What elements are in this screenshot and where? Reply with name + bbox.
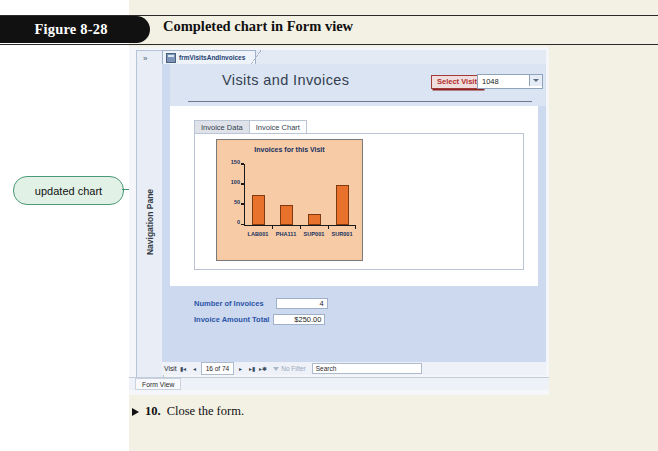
field-value[interactable]: 4 [276,298,328,309]
filter-status[interactable]: No Filter [273,365,306,372]
invoice-chart-object[interactable]: Invoices for this Visit 0 [216,139,363,261]
first-record-icon[interactable]: ▮◂ [179,363,188,374]
chart-y-tick-label: 100 [231,179,240,185]
field-invoice-amount-total: Invoice Amount Total $250.00 [194,314,325,325]
chart-x-tick-label: SUP001 [304,231,325,237]
next-record-icon[interactable]: ▸ [236,363,245,374]
chart-bar [308,214,321,225]
triangle-bullet-icon [132,408,139,416]
chart-y-axis [244,164,245,226]
document-tab-strip: frmVisitsAndInvoices [162,50,546,65]
chart-x-tick [300,226,301,229]
form-object-icon [166,53,176,63]
new-record-icon[interactable]: ▸✱ [258,363,267,374]
form-canvas: Visits and Invoices Select Visit 1048 In… [162,64,546,362]
field-number-of-invoices: Number of Invoices 4 [194,298,328,309]
chart-x-tick-label: LAB001 [248,231,269,237]
step-number: 10. [145,404,161,419]
chart-bar [280,205,293,225]
chart-plot-area-wrapper: Invoices for this Visit 0 [219,142,360,258]
step-instruction: 10. Close the form. [132,404,244,419]
figure-page: Figure 8-28 Completed chart in Form view… [0,0,658,451]
chevron-down-icon[interactable] [529,75,542,86]
field-label: Invoice Amount Total [194,315,269,324]
form-footer-fields: Number of Invoices 4 Invoice Amount Tota… [170,286,538,341]
visit-combo-box[interactable]: 1048 [477,74,543,89]
chart-plot-area: 0 50 100 150 [244,164,356,226]
step-text: Close the form. [167,404,244,419]
chart-x-tick [355,226,356,229]
navigation-pane[interactable]: » Navigation Pane [136,50,164,381]
figure-caption: Completed chart in Form view [163,18,353,35]
record-navigator: Visit ▮◂ ◂ 16 of 74 ▸ ▸▮ ▸✱ No Filter Se… [162,362,546,375]
chart-y-tick [241,183,244,184]
chart-y-tick-label: 150 [231,159,240,165]
tab-invoice-data[interactable]: Invoice Data [194,120,250,133]
chart-x-tick [272,226,273,229]
form-title: Visits and Invoices [222,72,349,88]
callout-updated-chart: updated chart [13,176,124,205]
field-value[interactable]: $250.00 [273,314,325,325]
search-input[interactable]: Search [312,363,422,374]
navigation-pane-label: Navigation Pane [145,189,155,255]
access-window: » Navigation Pane frmVisitsAndInvoices V… [129,47,549,395]
callout-label: updated chart [35,185,102,197]
last-record-icon[interactable]: ▸▮ [247,363,256,374]
record-position[interactable]: 16 of 74 [201,362,235,375]
chart-y-tick [241,203,244,204]
figure-rule-bottom [0,44,658,45]
figure-number-tab: Figure 8-28 [0,16,150,43]
form-header-divider [188,101,532,102]
document-tab-frmvisitsandinvoices[interactable]: frmVisitsAndInvoices [162,50,256,64]
tab-control-tab-row: Invoice Data Invoice Chart [194,120,307,133]
tab-invoice-chart[interactable]: Invoice Chart [249,120,307,133]
chart-title: Invoices for this Visit [219,146,360,153]
chart-y-tick [241,163,244,164]
status-bar-text: Form View [135,378,181,390]
status-bar: Form View [129,377,549,390]
select-visit-button[interactable]: Select Visit [431,75,483,89]
expand-navigation-pane-icon[interactable]: » [143,55,147,63]
page-left-margin [0,0,129,451]
record-nav-object-label: Visit [164,365,177,372]
figure-number: Figure 8-28 [34,21,107,38]
visit-combo-value: 1048 [478,77,499,86]
form-detail-section: Invoice Data Invoice Chart Invoices for … [170,106,538,286]
previous-record-icon[interactable]: ◂ [190,363,199,374]
filter-label: No Filter [281,365,306,372]
filter-icon [273,367,279,371]
chart-x-tick-label: PHA111 [276,231,297,237]
field-label: Number of Invoices [194,299,264,308]
document-tab-label: frmVisitsAndInvoices [179,54,245,61]
tab-control: Invoice Data Invoice Chart Invoices for … [194,120,524,272]
tab-page-invoice-chart: Invoices for this Visit 0 [194,133,524,270]
chart-x-tick-label: SUR001 [331,231,352,237]
chart-bar [252,195,265,225]
chart-bar [336,185,349,225]
chart-y-tick [241,224,244,225]
chart-y-tick-label: 0 [237,219,240,225]
chart-y-tick-label: 50 [234,199,240,205]
chart-x-tick [328,226,329,229]
form-header: Visits and Invoices Select Visit 1048 [170,64,546,106]
